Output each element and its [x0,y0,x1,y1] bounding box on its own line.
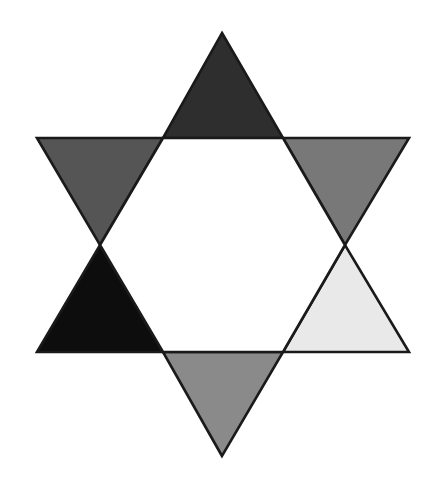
hexagram-figure [0,0,435,486]
figure-canvas [0,0,435,486]
